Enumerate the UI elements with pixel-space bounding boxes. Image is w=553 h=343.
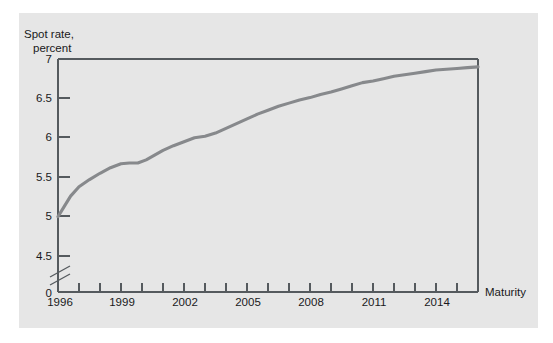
y-tick-label-6: 6 bbox=[46, 131, 52, 143]
x-tick-label-1996: 1996 bbox=[47, 296, 73, 308]
x-axis-ticks bbox=[58, 283, 478, 292]
y-tick-label-6_5: 6.5 bbox=[36, 92, 52, 104]
y-tick-label-4_5: 4.5 bbox=[36, 250, 52, 262]
x-tick-label-2011: 2011 bbox=[362, 296, 387, 308]
x-axis-tick-labels: 1996 1999 2002 2005 2008 2011 2014 bbox=[47, 296, 450, 308]
figure-root: 7 6.5 6 5.5 5 4.5 0 bbox=[0, 0, 553, 343]
y-axis-ticks bbox=[58, 59, 70, 292]
x-tick-label-2005: 2005 bbox=[235, 296, 261, 308]
y-axis-tick-labels: 7 6.5 6 5.5 5 4.5 0 bbox=[36, 53, 52, 299]
x-tick-label-2008: 2008 bbox=[298, 296, 324, 308]
y-axis-break-marks bbox=[50, 266, 70, 285]
y-axis-title-line2: percent bbox=[33, 42, 72, 54]
x-axis-title: Maturity bbox=[485, 286, 526, 298]
plot-frame bbox=[58, 59, 478, 292]
y-tick-label-5_5: 5.5 bbox=[36, 171, 52, 183]
y-tick-label-5: 5 bbox=[46, 210, 52, 222]
x-tick-label-2014: 2014 bbox=[424, 296, 450, 308]
x-tick-label-1999: 1999 bbox=[109, 296, 135, 308]
y-tick-label-7: 7 bbox=[46, 53, 52, 65]
spot-rate-chart: 7 6.5 6 5.5 5 4.5 0 bbox=[0, 0, 553, 343]
spot-rate-line-series bbox=[58, 67, 478, 217]
x-tick-label-2002: 2002 bbox=[172, 296, 198, 308]
y-axis-title-line1: Spot rate, bbox=[24, 28, 74, 40]
